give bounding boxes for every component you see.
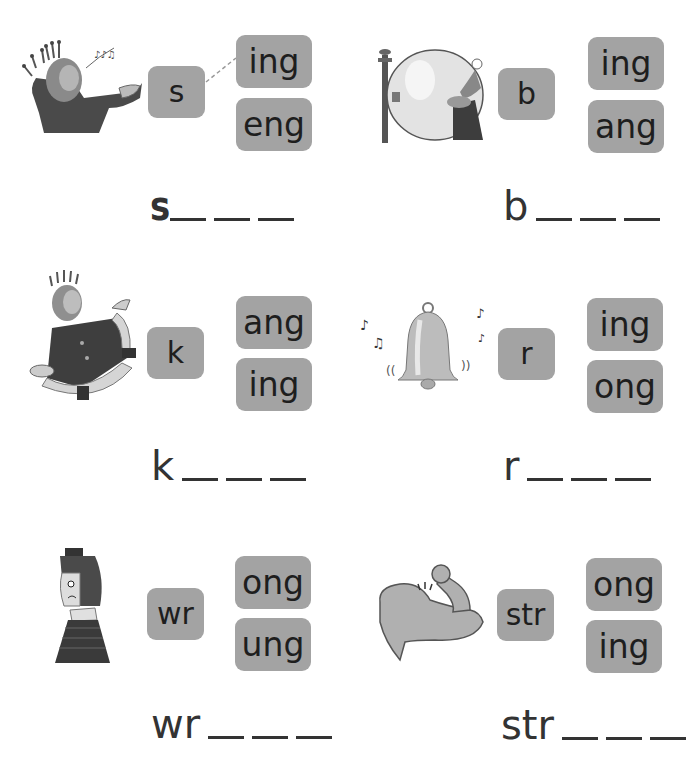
answer-line[interactable]: s — [150, 186, 294, 226]
svg-text:)): )) — [461, 359, 470, 373]
svg-text:♪♪♫: ♪♪♫ — [94, 49, 116, 60]
blank[interactable] — [650, 737, 686, 740]
blank[interactable] — [571, 478, 607, 481]
rime-tile[interactable]: ong — [587, 360, 663, 413]
sad-person-icon — [50, 548, 115, 668]
blank[interactable] — [258, 218, 294, 221]
flexed-arm-icon — [375, 562, 490, 662]
balloon-icon — [375, 40, 490, 145]
onset-tile[interactable]: str — [497, 589, 554, 641]
onset-tile[interactable]: b — [498, 68, 555, 120]
onset-tile[interactable]: r — [498, 328, 555, 380]
blank[interactable] — [580, 218, 616, 221]
answer-stem: k — [151, 446, 174, 486]
onset-tile[interactable]: wr — [147, 588, 204, 640]
blank[interactable] — [296, 736, 332, 739]
blank[interactable] — [536, 218, 572, 221]
rime-tile[interactable]: ang — [588, 100, 664, 153]
answer-line[interactable]: wr — [151, 704, 332, 744]
answer-line[interactable]: str — [501, 705, 686, 745]
answer-line[interactable]: r — [503, 446, 651, 486]
rime-tile[interactable]: eng — [236, 98, 312, 151]
answer-line[interactable]: b — [503, 186, 660, 226]
rime-tile[interactable]: ing — [588, 37, 664, 90]
rime-tile[interactable]: ong — [586, 558, 662, 611]
blank[interactable] — [214, 218, 250, 221]
blank[interactable] — [182, 478, 218, 481]
answer-stem: r — [503, 446, 519, 486]
svg-text:♪: ♪ — [360, 317, 369, 333]
ringing-bell-icon: ♪ ♫ ♪ ♪ (( )) — [358, 300, 498, 400]
svg-text:((: (( — [386, 364, 395, 378]
svg-text:♫: ♫ — [372, 335, 385, 351]
svg-text:♪: ♪ — [476, 306, 484, 321]
rime-tile[interactable]: ing — [236, 358, 312, 411]
answer-stem: b — [503, 186, 528, 226]
blank[interactable] — [208, 736, 244, 739]
rime-tile[interactable]: ing — [587, 298, 663, 351]
blank[interactable] — [606, 737, 642, 740]
blank[interactable] — [562, 737, 598, 740]
rime-tile[interactable]: ing — [236, 35, 312, 88]
blank[interactable] — [527, 478, 563, 481]
answer-stem: wr — [151, 704, 200, 744]
answer-stem: str — [501, 705, 554, 745]
onset-tile[interactable]: s — [148, 66, 205, 118]
rime-tile[interactable]: ing — [586, 620, 662, 673]
svg-text:♪: ♪ — [478, 332, 485, 345]
dashed-connector-line — [204, 55, 238, 85]
rime-tile[interactable]: ung — [235, 618, 311, 671]
rime-tile[interactable]: ang — [236, 296, 312, 349]
blank[interactable] — [624, 218, 660, 221]
rime-tile[interactable]: ong — [235, 556, 311, 609]
blank[interactable] — [270, 478, 306, 481]
blank[interactable] — [170, 218, 206, 221]
blank[interactable] — [226, 478, 262, 481]
singing-king-icon: ♪♪♫ — [14, 38, 144, 138]
onset-tile[interactable]: k — [147, 327, 204, 379]
blank[interactable] — [252, 736, 288, 739]
dancing-king-icon — [22, 268, 142, 403]
blank[interactable] — [615, 478, 651, 481]
answer-stem: s — [150, 186, 170, 226]
answer-line[interactable]: k — [151, 446, 306, 486]
